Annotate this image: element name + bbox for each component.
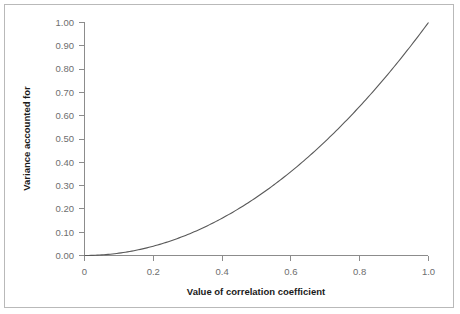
y-tick-label: 0.40: [56, 157, 75, 168]
x-tick-label: 0.4: [215, 266, 228, 277]
y-tick-label: 0.20: [56, 203, 75, 214]
x-tick-label: 0.6: [284, 266, 297, 277]
y-tick-label: 1.00: [56, 17, 75, 28]
y-tick-label: 0.70: [56, 87, 75, 98]
y-tick-label: 0.80: [56, 63, 75, 74]
y-tick-label: 0.50: [56, 133, 75, 144]
y-tick-label: 0.10: [56, 227, 75, 238]
x-axis-title: Value of correlation coefficient: [187, 286, 326, 297]
x-tick-label: 0.8: [353, 266, 366, 277]
y-axis-ticks: 0.00 0.10 0.20 0.30 0.40 0.50 0.60 0.70 …: [56, 17, 85, 261]
x-tick-label: 1.0: [422, 266, 435, 277]
x-tick-label: 0: [82, 266, 87, 277]
y-tick-label: 0.30: [56, 180, 75, 191]
axes-group: [84, 22, 428, 256]
y-axis-title: Variance accounted for: [21, 86, 32, 191]
plot-canvas: 0.00 0.10 0.20 0.30 0.40 0.50 0.60 0.70 …: [0, 0, 460, 314]
chart-figure: 0.00 0.10 0.20 0.30 0.40 0.50 0.60 0.70 …: [0, 0, 460, 314]
y-tick-label: 0.90: [56, 40, 75, 51]
x-axis-ticks: 0 0.2 0.4 0.6 0.8 1.0: [82, 256, 435, 277]
y-tick-label: 0.00: [56, 250, 75, 261]
data-curve-line: [85, 23, 429, 256]
y-tick-label: 0.60: [56, 110, 75, 121]
x-tick-label: 0.2: [147, 266, 160, 277]
